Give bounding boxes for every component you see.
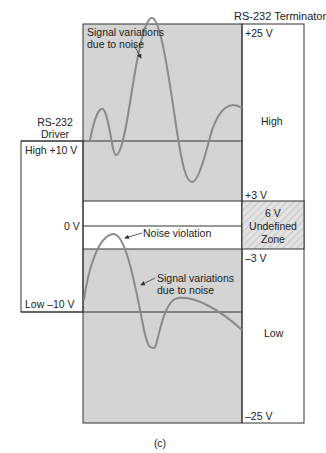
label-minus-25v: –25 V xyxy=(245,410,272,422)
annotation-top-noise-1: Signal variations xyxy=(87,26,164,38)
label-plus-25v: +25 V xyxy=(245,27,273,39)
transition-region xyxy=(83,201,242,249)
annotation-bottom-noise-1: Signal variations xyxy=(157,272,234,284)
figure-caption: (c) xyxy=(140,437,180,449)
label-0v: 0 V xyxy=(64,220,80,232)
label-terminator-high: High xyxy=(261,115,283,127)
terminator-title: RS-232 Terminator xyxy=(234,10,326,22)
label-plus-3v: +3 V xyxy=(245,189,267,201)
annotation-bottom-noise-2: due to noise xyxy=(157,284,214,296)
label-terminator-low: Low xyxy=(264,327,283,339)
label-minus-3v: –3 V xyxy=(245,252,267,264)
driver-title-1: RS-232 xyxy=(30,116,80,128)
label-undefined-6v: 6 V xyxy=(242,207,304,219)
label-driver-low: Low –10 V xyxy=(25,298,75,310)
driver-title-2: Driver xyxy=(30,128,80,140)
label-driver-high: High +10 V xyxy=(25,144,77,156)
label-zone: Zone xyxy=(242,233,304,245)
annotation-noise-violation: Noise violation xyxy=(143,227,211,239)
high-region-shade xyxy=(83,24,242,201)
annotation-top-noise-2: due to noise xyxy=(87,38,144,50)
label-undefined: Undefined xyxy=(242,220,304,232)
